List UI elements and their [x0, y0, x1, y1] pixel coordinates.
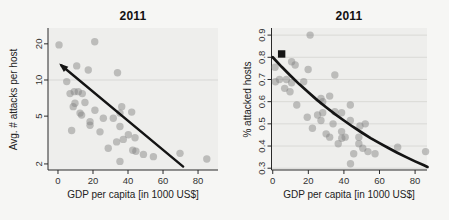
scatter-point [132, 148, 139, 155]
scatter-point [100, 115, 107, 122]
x-tick-label: 20 [303, 175, 314, 186]
y-tick-label: 20 [33, 39, 44, 50]
y-tick-label: 2 [33, 161, 44, 166]
scatter-point [79, 90, 86, 97]
scatter-point [293, 101, 300, 108]
right-plot-canvas: 0204060800.30.40.50.60.70.80.9 [225, 0, 449, 220]
scatter-point [91, 107, 98, 114]
scatter-point [291, 61, 298, 68]
scatter-point [116, 123, 123, 130]
scatter-point [68, 127, 75, 134]
x-tick-label: 80 [193, 175, 204, 186]
y-tick-label: 5 [33, 113, 44, 118]
scatter-point [335, 140, 342, 147]
scatter-point [176, 150, 183, 157]
y-tick-label: 0.7 [257, 73, 268, 86]
scatter-point [271, 64, 278, 71]
scatter-point [128, 108, 135, 115]
y-tick-label: 0.5 [257, 117, 268, 130]
x-tick-label: 20 [88, 175, 99, 186]
scatter-point [326, 92, 333, 99]
y-tick-label: 0.4 [257, 139, 268, 152]
right-plot: 0204060800.30.40.50.60.70.80.9 2011 % at… [225, 0, 449, 220]
right-plot-title: 2011 [271, 9, 427, 23]
y-tick-label: 0.3 [257, 162, 268, 175]
scatter-point [150, 153, 157, 160]
scatter-point [73, 62, 80, 69]
scatter-point [55, 41, 62, 48]
y-tick-label: 0.6 [257, 95, 268, 108]
scatter-point [422, 148, 429, 155]
scatter-point [85, 66, 92, 73]
left-x-axis-label: GDP per capita [in 1000 US$] [48, 189, 218, 200]
scatter-point [131, 134, 138, 141]
y-tick-label: 0.8 [257, 51, 268, 64]
scatter-point [114, 69, 121, 76]
scatter-point [105, 145, 112, 152]
scatter-point [309, 125, 316, 132]
left-y-axis-label: Avg. # attacks per host [5, 28, 23, 170]
scatter-point [110, 115, 117, 122]
x-tick-label: 0 [55, 175, 60, 186]
scatter-point [118, 103, 125, 110]
scatter-point [140, 151, 147, 158]
scatter-point [319, 109, 326, 116]
scatter-point [331, 71, 338, 78]
scatter-point [96, 128, 103, 135]
scatter-point [329, 120, 336, 127]
left-plot: 020406080251020 2011 Avg. # attacks per … [0, 0, 224, 220]
scatter-point [317, 117, 324, 124]
scatter-point [347, 160, 354, 167]
scatter-point [394, 143, 401, 150]
scatter-point [203, 155, 210, 162]
scatter-point [304, 66, 311, 73]
x-tick-label: 40 [339, 175, 350, 186]
x-tick-label: 40 [123, 175, 134, 186]
scatter-point [359, 145, 366, 152]
scatter-point [86, 122, 93, 129]
scatter-point [350, 150, 357, 157]
left-plot-title: 2011 [48, 9, 218, 23]
x-tick-label: 60 [374, 175, 385, 186]
panel-background [272, 28, 428, 170]
scatter-point [326, 133, 333, 140]
x-tick-label: 80 [410, 175, 421, 186]
y-tick-label: 10 [33, 75, 44, 86]
scatter-point [371, 150, 378, 157]
scatter-point [355, 133, 362, 140]
scatter-point [78, 111, 85, 118]
x-tick-label: 0 [270, 175, 275, 186]
scatter-point [304, 113, 311, 120]
scatter-point [91, 38, 98, 45]
scatter-point [276, 76, 283, 83]
scatter-point [286, 88, 293, 95]
x-tick-label: 60 [158, 175, 169, 186]
right-x-axis-label: GDP per capita [in 1000 US$] [271, 189, 427, 200]
scatter-point [63, 78, 70, 85]
left-plot-canvas: 020406080251020 [0, 0, 224, 220]
scatter-point [113, 138, 120, 145]
scatter-point [306, 31, 313, 38]
right-y-axis-label: % attacked hosts [238, 28, 256, 170]
scatter-point [70, 103, 77, 110]
scatter-point [81, 99, 88, 106]
y-tick-label: 0.9 [257, 28, 268, 41]
scatter-point [120, 136, 127, 143]
scatter-point [116, 158, 123, 165]
square-marker [278, 50, 285, 57]
figure: 020406080251020 2011 Avg. # attacks per … [0, 0, 449, 220]
scatter-point [347, 101, 354, 108]
scatter-point [362, 120, 369, 127]
